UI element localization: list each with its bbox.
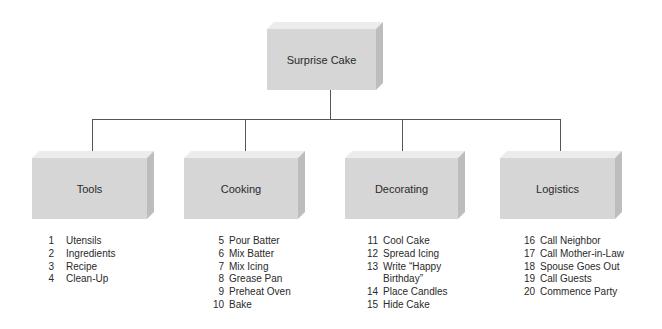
- list-item: 18Spouse Goes Out: [522, 261, 662, 274]
- box-label-cooking: Cooking: [184, 158, 298, 219]
- box-label-decorating: Decorating: [345, 158, 458, 219]
- list-item: 6Mix Batter: [211, 248, 331, 261]
- list-item: 13Write “Happy Birthday”: [365, 261, 461, 287]
- list-item: 8Grease Pan: [211, 273, 331, 286]
- task-list-decorating: 11Cool Cake 12Spread Icing 13Write “Happ…: [365, 235, 461, 312]
- list-item: 16Call Neighbor: [522, 235, 662, 248]
- list-item: 5Pour Batter: [211, 235, 331, 248]
- box-label-tools: Tools: [32, 158, 147, 219]
- list-item: 12Spread Icing: [365, 248, 461, 261]
- list-item: 1Utensils: [46, 235, 166, 248]
- task-list-cooking: 5Pour Batter 6Mix Batter 7Mix Icing 8Gre…: [211, 235, 331, 312]
- box-cooking: Cooking: [184, 151, 305, 219]
- list-item: 7Mix Icing: [211, 261, 331, 274]
- horizontal-connector: [92, 119, 561, 120]
- list-item: 9Preheat Oven: [211, 286, 331, 299]
- list-item: 19Call Guests: [522, 273, 662, 286]
- task-list-tools: 1Utensils 2Ingredients 3Recipe 4Clean-Up: [46, 235, 166, 286]
- list-item: 2Ingredients: [46, 248, 166, 261]
- box-tools: Tools: [32, 151, 154, 219]
- list-item: 11Cool Cake: [365, 235, 461, 248]
- list-item: 4Clean-Up: [46, 273, 166, 286]
- list-item: 17Call Mother-in-Law: [522, 248, 662, 261]
- root-label: Surprise Cake: [267, 29, 376, 90]
- root-connector: [330, 90, 331, 120]
- list-item: 10Bake: [211, 299, 331, 312]
- box-label-logistics: Logistics: [500, 158, 615, 219]
- root-box: Surprise Cake: [267, 22, 383, 90]
- list-item: 3Recipe: [46, 261, 166, 274]
- list-item: 15Hide Cake: [365, 299, 461, 312]
- list-item: 20Commence Party: [522, 286, 662, 299]
- box-logistics: Logistics: [500, 151, 622, 219]
- list-item: 14Place Candles: [365, 286, 461, 299]
- box-decorating: Decorating: [345, 151, 465, 219]
- task-list-logistics: 16Call Neighbor 17Call Mother-in-Law 18S…: [522, 235, 662, 299]
